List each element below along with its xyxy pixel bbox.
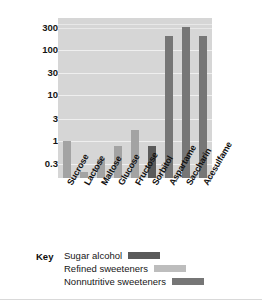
y-axis-tick: 100: [24, 45, 58, 55]
y-axis-tick: 0.3: [24, 159, 58, 169]
legend: Key Sugar alcoholRefined sweetenersNonnu…: [36, 249, 256, 297]
chart-figure: Relative sweetness (sucrose = 1) 3001003…: [0, 0, 262, 305]
y-axis-tick: 30: [24, 68, 58, 78]
legend-color-swatch: [128, 252, 160, 259]
y-axis-tick: 300: [24, 23, 58, 33]
legend-item-label: Nonnutritive sweeteners: [64, 276, 166, 287]
legend-color-swatch: [172, 278, 204, 285]
legend-item: Refined sweeteners: [64, 262, 186, 275]
gridline: [58, 24, 212, 25]
y-axis-tick-labels: 3001003010310.3: [24, 18, 58, 178]
y-axis-tick: 1: [24, 136, 58, 146]
legend-item: Sugar alcohol: [64, 249, 160, 262]
y-axis-tick: 10: [24, 90, 58, 100]
legend-title: Key: [36, 251, 53, 262]
legend-item-label: Sugar alcohol: [64, 250, 122, 261]
bottom-divider: [0, 299, 262, 300]
x-axis-tick-labels: SucroseLactoseMaltoseGlucoseFructoseSorb…: [58, 178, 218, 244]
legend-color-swatch: [154, 265, 186, 272]
legend-item-label: Refined sweeteners: [64, 263, 148, 274]
legend-item: Nonnutritive sweeteners: [64, 275, 204, 288]
y-axis-tick: 3: [24, 114, 58, 124]
